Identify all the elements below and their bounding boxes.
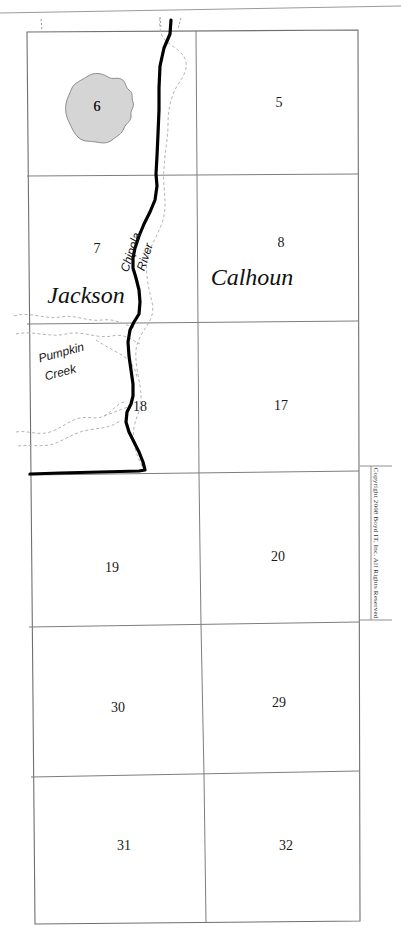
section-label-31: 31 bbox=[117, 838, 131, 853]
lake-label: 6 bbox=[94, 99, 101, 114]
section-label-18: 18 bbox=[133, 399, 147, 414]
county-label-calhoun: Calhoun bbox=[211, 264, 294, 290]
map-canvas[interactable]: 6 5 7 8 18 17 19 20 30 29 31 32 6 Jackso… bbox=[0, 0, 401, 937]
section-label-19: 19 bbox=[105, 560, 119, 575]
lake-label-group: 6 bbox=[94, 99, 101, 114]
section-label-7: 7 bbox=[94, 241, 101, 256]
copyright-text: Copyright 2008 Boyd IT, Inc. All Rights … bbox=[372, 468, 380, 619]
section-label-5: 5 bbox=[276, 95, 283, 110]
section-label-8: 8 bbox=[278, 235, 285, 250]
section-label-30: 30 bbox=[111, 700, 125, 715]
section-label-17: 17 bbox=[274, 398, 288, 413]
section-label-20: 20 bbox=[271, 549, 285, 564]
copyright-notice: Copyright 2008 Boyd IT, Inc. All Rights … bbox=[372, 468, 380, 619]
map-background bbox=[0, 0, 401, 937]
county-label-jackson: Jackson bbox=[47, 282, 124, 308]
section-label-32: 32 bbox=[279, 838, 293, 853]
section-label-29: 29 bbox=[272, 695, 286, 710]
map-svg[interactable]: 6 5 7 8 18 17 19 20 30 29 31 32 6 Jackso… bbox=[0, 0, 401, 937]
